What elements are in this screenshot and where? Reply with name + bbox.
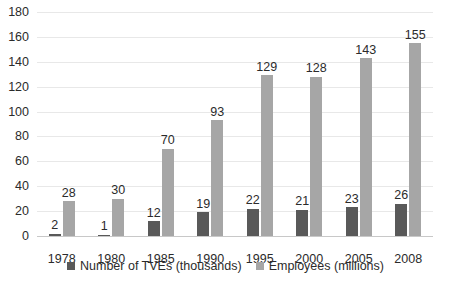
bar-value-label: 2 (51, 219, 58, 232)
bar-2005-series0[interactable]: 23 (346, 207, 358, 236)
category-group: 211282000 (285, 12, 335, 236)
bar-value-label: 129 (256, 61, 277, 74)
legend-label: Number of TVEs (thousands) (80, 259, 242, 273)
bar-1995-series1[interactable]: 129 (261, 75, 273, 236)
bar-2000-series0[interactable]: 21 (296, 210, 308, 236)
bar-1990-series1[interactable]: 93 (211, 120, 223, 236)
y-axis-tick-label: 20 (0, 204, 29, 218)
y-axis-tick-label: 100 (0, 105, 29, 119)
legend-item-series1[interactable]: Employees (millions) (256, 259, 384, 273)
category-group: 19931990 (186, 12, 236, 236)
bar-group: 26155 (384, 12, 434, 236)
category-group: 221291995 (235, 12, 285, 236)
bar-group: 228 (37, 12, 87, 236)
axis-baseline (37, 236, 433, 237)
y-axis-tick-label: 60 (0, 154, 29, 168)
bar-1985-series1[interactable]: 70 (162, 149, 174, 236)
bar-value-label: 21 (295, 195, 309, 208)
bar-value-label: 93 (210, 106, 224, 119)
bar-2008-series1[interactable]: 155 (409, 43, 421, 236)
category-group: 1301980 (87, 12, 137, 236)
bar-2000-series1[interactable]: 128 (310, 77, 322, 236)
y-axis-tick-label: 160 (0, 30, 29, 44)
bar-1978-series1[interactable]: 28 (63, 201, 75, 236)
bar-group: 23143 (334, 12, 384, 236)
legend-swatch-icon (256, 262, 264, 270)
plot-area: 2281978130198012701985199319902212919952… (37, 12, 433, 236)
bar-value-label: 19 (196, 198, 210, 211)
bar-1980-series1[interactable]: 30 (112, 199, 124, 236)
y-axis-tick-label: 80 (0, 129, 29, 143)
bar-value-label: 26 (394, 189, 408, 202)
y-axis-tick-label: 0 (0, 229, 29, 243)
legend-label: Employees (millions) (269, 259, 384, 273)
y-axis-tick-label: 140 (0, 55, 29, 69)
bar-group: 1270 (136, 12, 186, 236)
bar-1985-series0[interactable]: 12 (148, 221, 160, 236)
bar-value-label: 23 (345, 193, 359, 206)
bar-chart: 2281978130198012701985199319902212919952… (0, 0, 451, 289)
bar-value-label: 155 (405, 29, 426, 42)
bar-group: 21128 (285, 12, 335, 236)
bar-value-label: 70 (161, 134, 175, 147)
bar-group: 22129 (235, 12, 285, 236)
y-axis-tick-label: 40 (0, 179, 29, 193)
bar-value-label: 1 (101, 220, 108, 233)
bar-2008-series0[interactable]: 26 (395, 204, 407, 236)
bar-value-label: 30 (111, 184, 125, 197)
bar-value-label: 12 (147, 207, 161, 220)
category-group: 12701985 (136, 12, 186, 236)
bar-value-label: 128 (306, 62, 327, 75)
bar-value-label: 22 (246, 194, 260, 207)
bar-1990-series0[interactable]: 19 (197, 212, 209, 236)
bar-2005-series1[interactable]: 143 (360, 58, 372, 236)
y-axis-tick-label: 120 (0, 80, 29, 94)
bar-1995-series0[interactable]: 22 (247, 209, 259, 236)
legend-item-series0[interactable]: Number of TVEs (thousands) (67, 259, 242, 273)
category-group: 261552008 (384, 12, 434, 236)
chart-legend: Number of TVEs (thousands)Employees (mil… (0, 259, 451, 273)
bar-1980-series0[interactable]: 1 (98, 235, 110, 237)
category-group: 231432005 (334, 12, 384, 236)
y-axis-tick-label: 180 (0, 5, 29, 19)
bar-value-label: 143 (355, 44, 376, 57)
legend-swatch-icon (67, 262, 75, 270)
bar-1978-series0[interactable]: 2 (49, 234, 61, 236)
category-group: 2281978 (37, 12, 87, 236)
bar-group: 130 (87, 12, 137, 236)
bar-group: 1993 (186, 12, 236, 236)
bar-value-label: 28 (62, 187, 76, 200)
